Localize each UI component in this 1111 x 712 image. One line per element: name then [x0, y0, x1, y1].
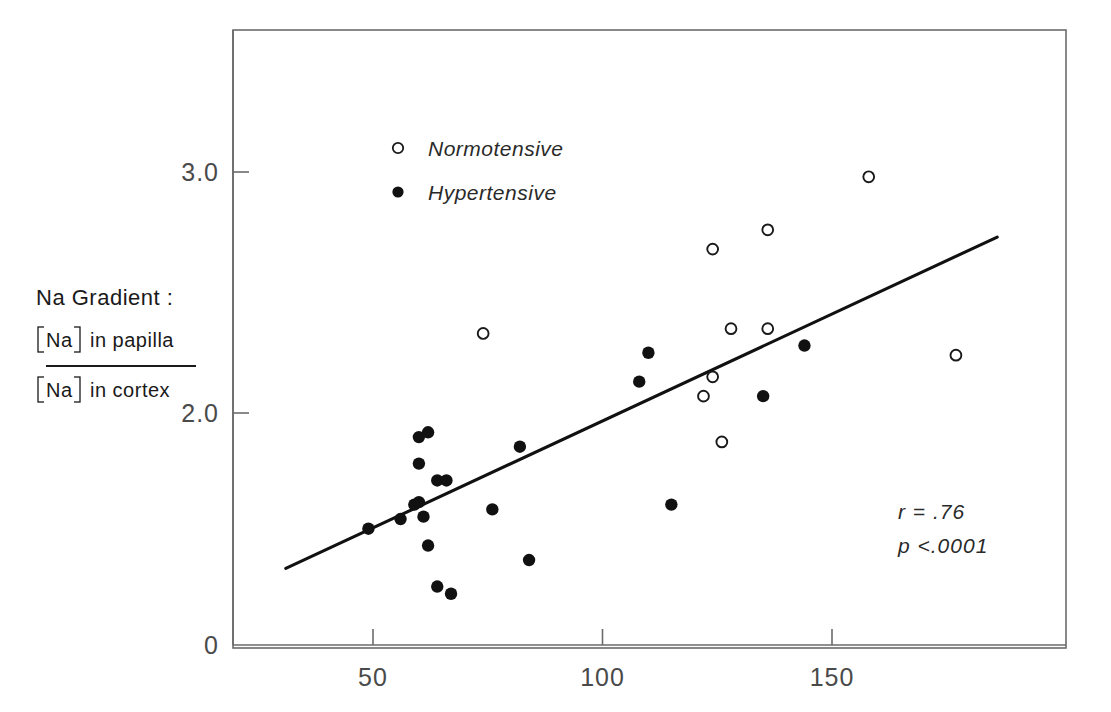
data-point-normotensive	[698, 391, 709, 402]
data-point-hypertensive	[417, 510, 429, 522]
y-axis-denominator-text: in cortex	[90, 379, 170, 401]
y-tick-label: 2.0	[181, 399, 219, 427]
x-tick-label: 50	[358, 663, 388, 691]
legend-label-normotensive: Normotensive	[428, 137, 564, 160]
x-axis-ticks: 50100150	[358, 629, 854, 691]
data-point-normotensive	[762, 323, 773, 334]
data-point-hypertensive	[757, 390, 769, 402]
data-point-hypertensive	[394, 513, 406, 525]
legend: Normotensive Hypertensive	[392, 137, 563, 204]
data-point-normotensive	[716, 437, 727, 448]
data-point-normotensive	[863, 171, 874, 182]
data-point-hypertensive	[486, 503, 498, 515]
data-point-hypertensive	[422, 426, 434, 438]
data-point-hypertensive	[413, 457, 425, 469]
y-axis-label-title: Na Gradient :	[36, 285, 173, 310]
data-point-hypertensive	[665, 498, 677, 510]
x-tick-label: 150	[810, 663, 855, 691]
regression-line	[286, 237, 997, 568]
data-point-normotensive	[707, 371, 718, 382]
data-point-normotensive	[707, 244, 718, 255]
y-tick-label: 3.0	[181, 158, 219, 186]
figure-container: 3.02.00 50100150 Normotensive Hypertensi…	[0, 0, 1111, 712]
data-point-normotensive	[726, 323, 737, 334]
na-symbol-denominator: Na	[46, 379, 73, 401]
pvalue: p <.0001	[897, 534, 988, 557]
legend-label-hypertensive: Hypertensive	[428, 181, 557, 204]
data-point-hypertensive	[431, 580, 443, 592]
data-point-hypertensive	[440, 474, 452, 486]
data-point-hypertensive	[362, 522, 374, 534]
x-tick-label: 100	[580, 663, 625, 691]
y-axis-numerator-text: in papilla	[90, 329, 174, 351]
scatter-plot: 3.02.00 50100150 Normotensive Hypertensi…	[0, 0, 1111, 712]
y-axis-ticks: 3.02.00	[181, 158, 249, 659]
legend-marker-normotensive	[393, 143, 403, 153]
y-tick-label: 0	[204, 631, 219, 659]
data-point-normotensive	[478, 328, 489, 339]
data-point-hypertensive	[523, 554, 535, 566]
data-point-normotensive	[951, 350, 962, 361]
data-point-normotensive	[762, 224, 773, 235]
na-symbol-numerator: Na	[46, 329, 73, 351]
data-point-hypertensive	[422, 539, 434, 551]
data-point-hypertensive	[633, 375, 645, 387]
series-hypertensive	[362, 339, 810, 600]
data-point-hypertensive	[413, 496, 425, 508]
stats-annotation: r = .76 p <.0001	[897, 500, 988, 557]
legend-marker-hypertensive	[392, 186, 403, 197]
data-point-hypertensive	[798, 339, 810, 351]
data-point-hypertensive	[514, 441, 526, 453]
y-axis-label: Na Gradient : Na in papilla Na in cortex	[36, 285, 196, 404]
data-point-hypertensive	[642, 347, 654, 359]
series-normotensive	[478, 171, 962, 447]
data-point-hypertensive	[445, 588, 457, 600]
correlation-value: r = .76	[898, 500, 965, 523]
